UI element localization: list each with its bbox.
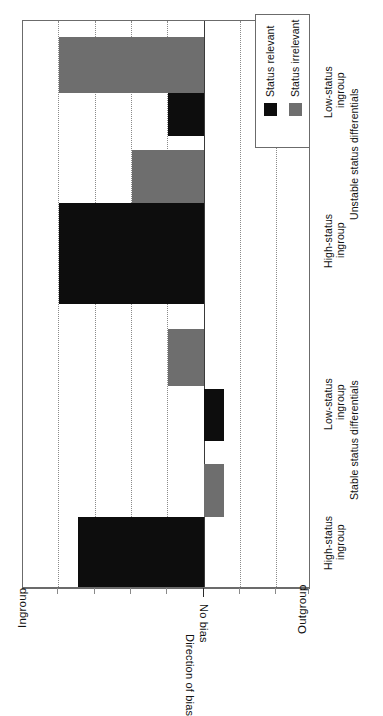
legend-label-status-relevant: Status relevant bbox=[264, 25, 276, 97]
gridline-3 bbox=[95, 21, 96, 587]
axis-tick-minus-2 bbox=[275, 588, 276, 594]
bar-stable-highstatus-irrelevant bbox=[204, 464, 224, 517]
axis-title-direction-of-bias: Direction of bias bbox=[184, 634, 196, 716]
legend: Status relevant Status irrelevant bbox=[255, 14, 310, 148]
axis-tick-minus-1 bbox=[239, 588, 240, 594]
category-label-stable-highstatus-line1: High-status bbox=[322, 516, 334, 570]
axis-label-outgroup: Outgroup bbox=[296, 584, 308, 634]
axis-tick-1 bbox=[166, 588, 167, 594]
gridline-4 bbox=[58, 21, 59, 587]
axis-tick-minus-3 bbox=[308, 588, 309, 594]
axis-label-ingroup: Ingroup bbox=[16, 588, 28, 628]
category-label-stable-highstatus-line2: ingroup bbox=[334, 524, 346, 560]
group-label-stable: Stable status differentials bbox=[348, 380, 360, 500]
category-label-stable-lowstatus-line1: Low-status bbox=[322, 378, 334, 430]
axis-tick-zero bbox=[203, 588, 204, 597]
axis-tick-4 bbox=[57, 588, 58, 594]
bar-unstable-highstatus-relevant bbox=[59, 203, 204, 304]
category-label-stable-lowstatus-line2: ingroup bbox=[334, 384, 346, 420]
category-label-unstable-lowstatus-line1: Low-status bbox=[322, 66, 334, 118]
legend-swatch-status-irrelevant-icon bbox=[289, 103, 302, 116]
axis-label-no-bias: No bias bbox=[198, 604, 210, 643]
bar-unstable-lowstatus-irrelevant bbox=[59, 37, 204, 93]
category-label-unstable-lowstatus-line2: ingroup bbox=[334, 72, 346, 108]
axis-tick-3 bbox=[94, 588, 95, 594]
gridline-2 bbox=[131, 21, 132, 587]
category-label-unstable-highstatus-line2: ingroup bbox=[334, 222, 346, 258]
legend-label-status-irrelevant: Status irrelevant bbox=[289, 19, 301, 97]
bar-unstable-lowstatus-relevant bbox=[168, 93, 204, 136]
bar-unstable-highstatus-irrelevant bbox=[132, 150, 204, 203]
bar-stable-lowstatus-relevant bbox=[204, 389, 224, 441]
axis-tick-2 bbox=[130, 588, 131, 594]
group-label-unstable: Unstable status differentials bbox=[348, 88, 360, 220]
gridline-minus-1 bbox=[240, 21, 241, 587]
category-label-unstable-highstatus-line1: High-status bbox=[322, 214, 334, 268]
bar-stable-lowstatus-irrelevant bbox=[168, 329, 204, 386]
legend-swatch-status-relevant-icon bbox=[264, 103, 277, 116]
bar-stable-highstatus-relevant bbox=[78, 517, 204, 588]
